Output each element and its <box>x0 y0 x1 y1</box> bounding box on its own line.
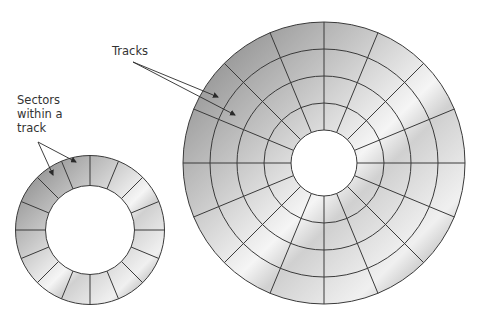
small-disk-track <box>15 155 164 304</box>
tracks-label: Tracks <box>112 44 148 58</box>
disk-diagram <box>0 0 481 319</box>
small-disk-track-ring <box>46 186 135 275</box>
large-disk-track-ring <box>291 130 357 196</box>
tracks-arrow <box>133 62 218 97</box>
sectors-arrow <box>38 142 76 162</box>
sectors-label-line1: Sectors <box>17 93 60 107</box>
large-disk-platter <box>183 22 465 304</box>
sectors-label-line3: track <box>17 121 46 135</box>
sectors-label-line2: within a <box>17 107 63 121</box>
